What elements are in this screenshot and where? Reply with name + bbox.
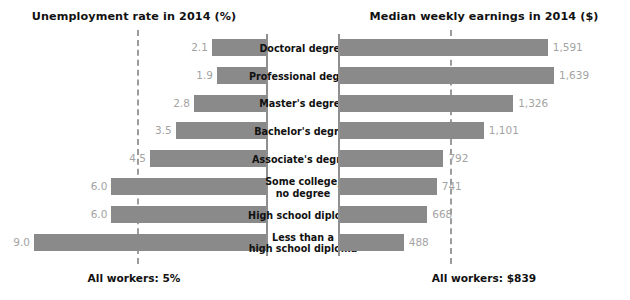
earnings-value-label: 741 [442,178,502,195]
unemployment-bar[interactable] [212,39,266,56]
category-label: Associate's degree [268,145,338,174]
unemployment-row: 1.9 [0,62,268,91]
unemployment-value-label: 4.5 [86,150,146,167]
unemployment-row: 6.0 [0,201,268,230]
unemployment-row: 2.8 [0,90,268,119]
category-label: Less than ahigh school diploma [268,229,338,258]
earnings-bar[interactable] [340,67,554,84]
category-label: Doctoral degree [268,34,338,63]
earnings-bar[interactable] [340,122,484,139]
unemployment-row: 6.0 [0,173,268,202]
left-panel-title: Unemployment rate in 2014 (%) [0,10,268,23]
unemployment-chart: 2.11.92.83.54.56.06.09.0 [0,28,268,260]
category-label-line: Some college, [265,176,341,188]
unemployment-value-label: 2.8 [130,95,190,112]
category-label: Professional degree [268,62,338,91]
unemployment-value-label: 9.0 [0,234,30,251]
earnings-value-label: 668 [432,206,492,223]
earnings-row: 1,639 [338,62,630,91]
unemployment-row: 3.5 [0,117,268,146]
category-label: High school diploma [268,201,338,230]
earnings-row: 741 [338,173,630,202]
left-panel-footer: All workers: 5% [0,272,268,284]
unemployment-value-label: 6.0 [47,178,107,195]
earnings-bar[interactable] [340,150,443,167]
earnings-row: 1,326 [338,90,630,119]
earnings-bar[interactable] [340,39,548,56]
earnings-value-label: 488 [409,234,469,251]
earnings-row: 1,591 [338,34,630,63]
category-label-line: no degree [276,188,331,200]
unemployment-bar[interactable] [34,234,266,251]
earnings-row: 1,101 [338,117,630,146]
unemployment-value-label: 1.9 [153,67,213,84]
unemployment-bar[interactable] [111,178,266,195]
unemployment-bar[interactable] [176,122,266,139]
category-label: Some college,no degree [268,173,338,202]
unemployment-value-label: 6.0 [47,206,107,223]
unemployment-value-label: 3.5 [112,122,172,139]
unemployment-value-label: 2.1 [148,39,208,56]
unemployment-bar[interactable] [194,95,266,112]
earnings-value-label: 1,591 [553,39,613,56]
category-label-column: Doctoral degreeProfessional degreeMaster… [268,28,338,260]
right-panel-title: Median weekly earnings in 2014 ($) [338,10,630,23]
category-label-line: Less than a [272,232,334,244]
earnings-chart: 1,5911,6391,3261,101792741668488 [338,28,630,260]
category-label: Master's degree [268,90,338,119]
earnings-row: 488 [338,229,630,258]
earnings-value-label: 1,101 [489,122,549,139]
unemployment-row: 2.1 [0,34,268,63]
earnings-row: 792 [338,145,630,174]
earnings-value-label: 1,326 [518,95,578,112]
unemployment-row: 4.5 [0,145,268,174]
category-label: Bachelor's degree [268,117,338,146]
earnings-row: 668 [338,201,630,230]
education-pays-figure: Unemployment rate in 2014 (%) Median wee… [0,0,630,300]
earnings-bar[interactable] [340,178,437,195]
earnings-value-label: 792 [448,150,508,167]
earnings-value-label: 1,639 [559,67,619,84]
unemployment-bar[interactable] [150,150,266,167]
unemployment-row: 9.0 [0,229,268,258]
right-panel-footer: All workers: $839 [338,272,630,284]
earnings-bar[interactable] [340,95,513,112]
earnings-bar[interactable] [340,234,404,251]
earnings-bar[interactable] [340,206,427,223]
category-label-line: Doctoral degree [259,43,346,55]
unemployment-bar[interactable] [111,206,266,223]
category-label-line: Master's degree [259,98,347,110]
